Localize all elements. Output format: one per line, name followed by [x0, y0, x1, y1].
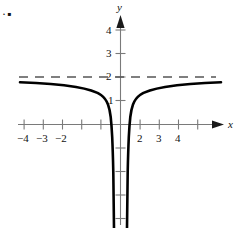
graph-figure: ·▪	[0, 0, 243, 228]
x-tick-label-minus-3: −3	[36, 133, 48, 144]
curve-left-branch	[20, 82, 114, 228]
x-tick-label-2: 2	[137, 133, 143, 144]
x-axis-arrowhead	[212, 121, 224, 129]
x-tick-label-minus-4: −4	[17, 133, 29, 144]
y-tick-label-4: 4	[106, 25, 112, 36]
x-tick-label-4: 4	[175, 133, 181, 144]
coordinate-plot	[0, 0, 243, 228]
y-tick-label-3: 3	[106, 48, 112, 59]
y-axis-arrowhead	[116, 15, 124, 28]
x-tick-label-minus-2: −2	[55, 133, 67, 144]
x-tick-label-3: 3	[156, 133, 162, 144]
curve-right-branch	[127, 82, 221, 228]
y-axis-label: y	[117, 2, 122, 13]
y-tick-label-1: 1	[108, 95, 114, 106]
x-axis-label: x	[228, 119, 233, 130]
y-tick-label-2: 2	[106, 71, 112, 82]
